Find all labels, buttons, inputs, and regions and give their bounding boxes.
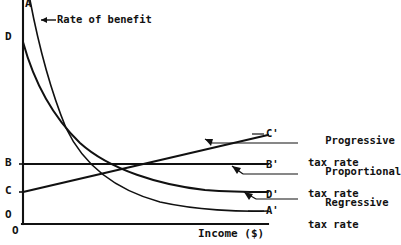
legend-regressive-line2: tax rate (300, 219, 389, 230)
curve-start-label-A: A (25, 0, 32, 10)
origin-label: O (12, 225, 19, 237)
proportional-leader (232, 166, 298, 174)
legend-entry-regressive: Regressive tax rate (300, 186, 389, 245)
curve-start-label-D: D (5, 31, 12, 43)
rate-of-benefit-annotation: Rate of benefit (57, 14, 152, 25)
curve-end-label-B-prime: B' (266, 159, 279, 170)
legend-progressive-line1: Progressive (325, 134, 395, 146)
curve-end-label-A-prime: A' (266, 205, 279, 216)
x-axis-title: Income ($) (198, 228, 264, 240)
curve-start-label-C: C (5, 185, 12, 197)
series-line-D (23, 42, 268, 192)
y-axis-zero-label: O (5, 209, 12, 221)
curve-start-label-B: B (5, 157, 12, 169)
curve-end-label-C-prime: C' (266, 128, 279, 139)
legend-proportional-line1: Proportional (325, 165, 401, 177)
curve-end-label-D-prime: D' (266, 189, 279, 200)
rate-of-benefit-leader (41, 17, 56, 23)
legend-regressive-line1: Regressive (325, 196, 388, 208)
progressive-leader (205, 139, 298, 146)
